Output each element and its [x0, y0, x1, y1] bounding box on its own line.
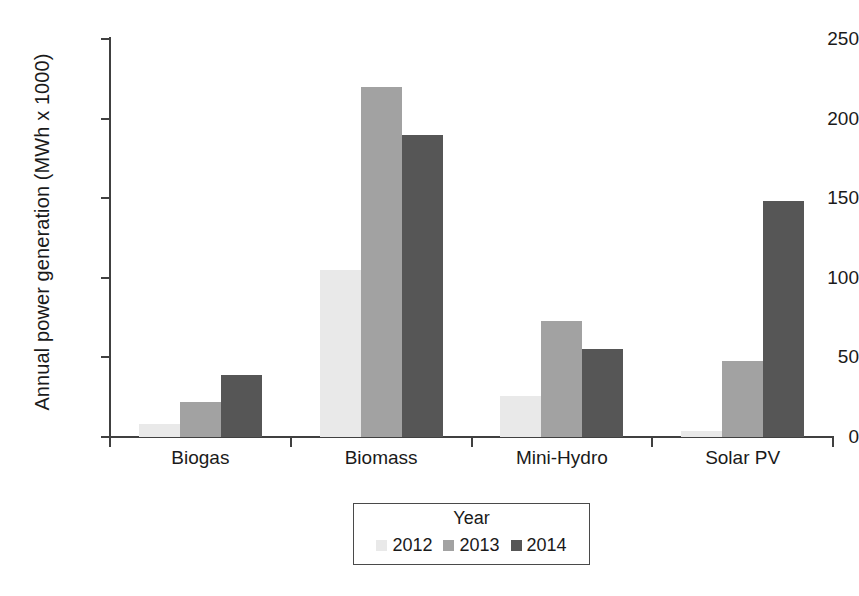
bar-biogas-2012 [139, 424, 180, 437]
legend-label-2012: 2012 [392, 535, 432, 555]
legend-entry-2013: 2013 [443, 535, 499, 555]
bar-biogas-2013 [180, 402, 221, 437]
bar-biomass-2012 [320, 270, 361, 437]
legend-swatch-2013 [443, 540, 454, 551]
bar-solar-pv-2014 [763, 201, 804, 437]
legend: Year 201220132014 [353, 503, 590, 565]
legend-title: Year [354, 508, 589, 528]
bar-mini-hydro-2012 [500, 396, 541, 437]
x-category-label-biogas: Biogas [110, 447, 291, 469]
x-tick-mark [651, 438, 653, 447]
x-category-label-mini-hydro: Mini-Hydro [472, 447, 653, 469]
legend-label-2014: 2014 [527, 535, 567, 555]
plot-area [110, 39, 833, 437]
legend-swatch-2012 [376, 540, 387, 551]
legend-entry-2014: 2014 [511, 535, 567, 555]
bar-biomass-2014 [402, 135, 443, 437]
x-tick-mark [832, 438, 834, 447]
y-tick-mark [101, 197, 110, 199]
legend-entries: 201220132014 [354, 535, 589, 555]
x-category-label-biomass: Biomass [291, 447, 472, 469]
bar-biogas-2014 [221, 375, 262, 437]
y-tick-mark [101, 356, 110, 358]
y-axis-title: Annual power generation (MWh x 1000) [22, 12, 62, 452]
legend-swatch-2014 [511, 540, 522, 551]
x-tick-mark [109, 438, 111, 447]
y-tick-mark [101, 277, 110, 279]
y-tick-mark [101, 38, 110, 40]
y-tick-mark [101, 118, 110, 120]
bar-mini-hydro-2014 [582, 349, 623, 437]
x-tick-mark [471, 438, 473, 447]
bar-mini-hydro-2013 [541, 321, 582, 437]
x-tick-mark [290, 438, 292, 447]
legend-label-2013: 2013 [459, 535, 499, 555]
bar-solar-pv-2012 [681, 431, 722, 437]
legend-entry-2012: 2012 [376, 535, 432, 555]
bar-solar-pv-2013 [722, 361, 763, 437]
bar-biomass-2013 [361, 87, 402, 437]
x-category-label-solar-pv: Solar PV [652, 447, 833, 469]
bar-chart: Annual power generation (MWh x 1000) 050… [0, 0, 859, 596]
